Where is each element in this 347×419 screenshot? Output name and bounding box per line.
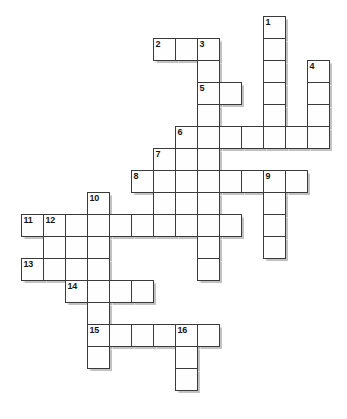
crossword-cell[interactable] <box>197 192 220 215</box>
crossword-cell[interactable] <box>131 214 154 237</box>
crossword-cell[interactable] <box>175 170 198 193</box>
crossword-cell[interactable] <box>263 60 286 83</box>
crossword-cell-numbered-12[interactable]: 12 <box>43 214 66 237</box>
crossword-cell[interactable] <box>87 236 110 259</box>
crossword-cell[interactable] <box>197 258 220 281</box>
cell-letter <box>176 39 197 60</box>
cell-letter <box>66 281 87 302</box>
crossword-cell[interactable] <box>197 104 220 127</box>
cell-letter <box>154 171 175 192</box>
crossword-cell[interactable] <box>285 126 308 149</box>
crossword-cell[interactable] <box>153 170 176 193</box>
crossword-cell[interactable] <box>65 258 88 281</box>
cell-letter <box>88 237 109 258</box>
crossword-cell-numbered-15[interactable]: 15 <box>87 324 110 347</box>
crossword-grid[interactable]: 12345678910111213141516 <box>0 0 347 419</box>
cell-letter <box>198 215 219 236</box>
cell-letter <box>110 215 131 236</box>
cell-letter <box>66 215 87 236</box>
crossword-cell[interactable] <box>197 214 220 237</box>
crossword-cell[interactable] <box>197 236 220 259</box>
crossword-cell[interactable] <box>197 126 220 149</box>
cell-letter <box>220 215 241 236</box>
cell-letter <box>198 259 219 280</box>
cell-letter <box>198 171 219 192</box>
crossword-cell[interactable] <box>263 126 286 149</box>
crossword-cell[interactable] <box>131 280 154 303</box>
crossword-cell-numbered-1[interactable]: 1 <box>263 16 286 39</box>
cell-letter <box>22 259 43 280</box>
crossword-cell[interactable] <box>175 214 198 237</box>
cell-letter <box>264 237 285 258</box>
crossword-cell-numbered-8[interactable]: 8 <box>131 170 154 193</box>
cell-letter <box>308 61 329 82</box>
crossword-cell[interactable] <box>197 324 220 347</box>
crossword-cell[interactable] <box>87 214 110 237</box>
crossword-cell-numbered-7[interactable]: 7 <box>153 148 176 171</box>
crossword-cell[interactable] <box>197 170 220 193</box>
crossword-cell[interactable] <box>109 324 132 347</box>
crossword-cell-numbered-16[interactable]: 16 <box>175 324 198 347</box>
cell-letter <box>264 17 285 38</box>
crossword-cell[interactable] <box>241 126 264 149</box>
crossword-cell[interactable] <box>219 82 242 105</box>
crossword-cell[interactable] <box>263 236 286 259</box>
crossword-cell-numbered-4[interactable]: 4 <box>307 60 330 83</box>
crossword-cell[interactable] <box>153 214 176 237</box>
cell-letter <box>66 259 87 280</box>
crossword-cell[interactable] <box>285 170 308 193</box>
crossword-cell-numbered-9[interactable]: 9 <box>263 170 286 193</box>
crossword-cell[interactable] <box>307 82 330 105</box>
cell-letter <box>198 61 219 82</box>
crossword-cell[interactable] <box>307 104 330 127</box>
cell-letter <box>242 127 263 148</box>
crossword-cell[interactable] <box>87 258 110 281</box>
crossword-cell-numbered-10[interactable]: 10 <box>87 192 110 215</box>
crossword-cell[interactable] <box>219 214 242 237</box>
crossword-cell[interactable] <box>263 214 286 237</box>
cell-letter <box>88 193 109 214</box>
crossword-cell[interactable] <box>153 192 176 215</box>
crossword-cell[interactable] <box>263 192 286 215</box>
cell-letter <box>308 83 329 104</box>
crossword-cell-numbered-11[interactable]: 11 <box>21 214 44 237</box>
crossword-cell[interactable] <box>175 346 198 369</box>
crossword-cell[interactable] <box>241 170 264 193</box>
crossword-cell[interactable] <box>175 192 198 215</box>
crossword-cell[interactable] <box>263 38 286 61</box>
crossword-cell[interactable] <box>219 126 242 149</box>
crossword-cell[interactable] <box>175 148 198 171</box>
cell-letter <box>44 237 65 258</box>
crossword-cell[interactable] <box>263 82 286 105</box>
crossword-cell[interactable] <box>263 104 286 127</box>
crossword-cell[interactable] <box>109 280 132 303</box>
crossword-cell[interactable] <box>197 148 220 171</box>
cell-letter <box>154 39 175 60</box>
crossword-cell[interactable] <box>43 258 66 281</box>
crossword-cell-numbered-6[interactable]: 6 <box>175 126 198 149</box>
crossword-cell-numbered-2[interactable]: 2 <box>153 38 176 61</box>
crossword-cell[interactable] <box>65 236 88 259</box>
crossword-cell-numbered-5[interactable]: 5 <box>197 82 220 105</box>
crossword-cell[interactable] <box>175 38 198 61</box>
crossword-cell[interactable] <box>197 60 220 83</box>
crossword-cell[interactable] <box>87 302 110 325</box>
cell-letter <box>176 369 197 390</box>
crossword-cell[interactable] <box>153 324 176 347</box>
cell-letter <box>198 237 219 258</box>
crossword-cell[interactable] <box>307 126 330 149</box>
crossword-cell-numbered-14[interactable]: 14 <box>65 280 88 303</box>
cell-letter <box>198 149 219 170</box>
crossword-cell[interactable] <box>87 280 110 303</box>
crossword-cell[interactable] <box>65 214 88 237</box>
crossword-cell-numbered-13[interactable]: 13 <box>21 258 44 281</box>
crossword-cell[interactable] <box>109 214 132 237</box>
crossword-cell[interactable] <box>131 324 154 347</box>
crossword-cell[interactable] <box>87 346 110 369</box>
crossword-cell-numbered-3[interactable]: 3 <box>197 38 220 61</box>
crossword-cell[interactable] <box>175 368 198 391</box>
crossword-cell[interactable] <box>219 170 242 193</box>
cell-letter <box>88 325 109 346</box>
crossword-cell[interactable] <box>43 236 66 259</box>
cell-letter <box>286 127 307 148</box>
